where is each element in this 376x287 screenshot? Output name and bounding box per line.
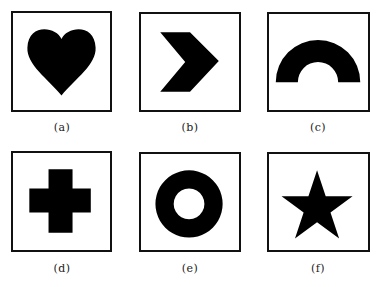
panel-e: [139, 152, 241, 252]
panel-b: [139, 12, 241, 112]
panel-a: [11, 11, 112, 112]
ring-icon: [141, 154, 239, 250]
star-icon: [269, 154, 368, 250]
panel-d: [11, 151, 112, 252]
panel-a-label: (a): [32, 121, 92, 134]
panel-e-label: (e): [160, 262, 220, 275]
chevron-right-icon: [141, 14, 239, 110]
panel-c-label: (c): [288, 121, 348, 134]
heart-icon: [13, 13, 110, 110]
panel-d-label: (d): [32, 262, 92, 275]
panel-b-label: (b): [160, 121, 220, 134]
panel-c: [267, 12, 370, 112]
panel-f: [267, 152, 370, 252]
panel-f-label: (f): [288, 262, 348, 275]
half-ring-arch-icon: [269, 14, 368, 110]
cross-plus-icon: [13, 153, 110, 250]
